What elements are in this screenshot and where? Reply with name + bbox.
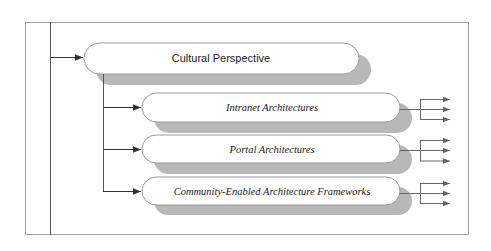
child-node-community[interactable]: Community-Enabled Architecture Framework… — [103, 177, 450, 215]
intranet-node-label: Intranet Architectures — [225, 102, 318, 113]
community-node-label: Community-Enabled Architecture Framework… — [174, 186, 371, 197]
portal-node-label: Portal Architectures — [228, 144, 314, 155]
root-node-label: Cultural Perspective — [172, 52, 270, 64]
child-node-portal[interactable]: Portal Architectures — [104, 135, 450, 174]
child-node-intranet[interactable]: Intranet Architectures — [104, 93, 450, 133]
root-node[interactable]: Cultural Perspective — [84, 43, 371, 85]
diagram-canvas: Cultural Perspective Intranet Architectu… — [0, 0, 491, 251]
